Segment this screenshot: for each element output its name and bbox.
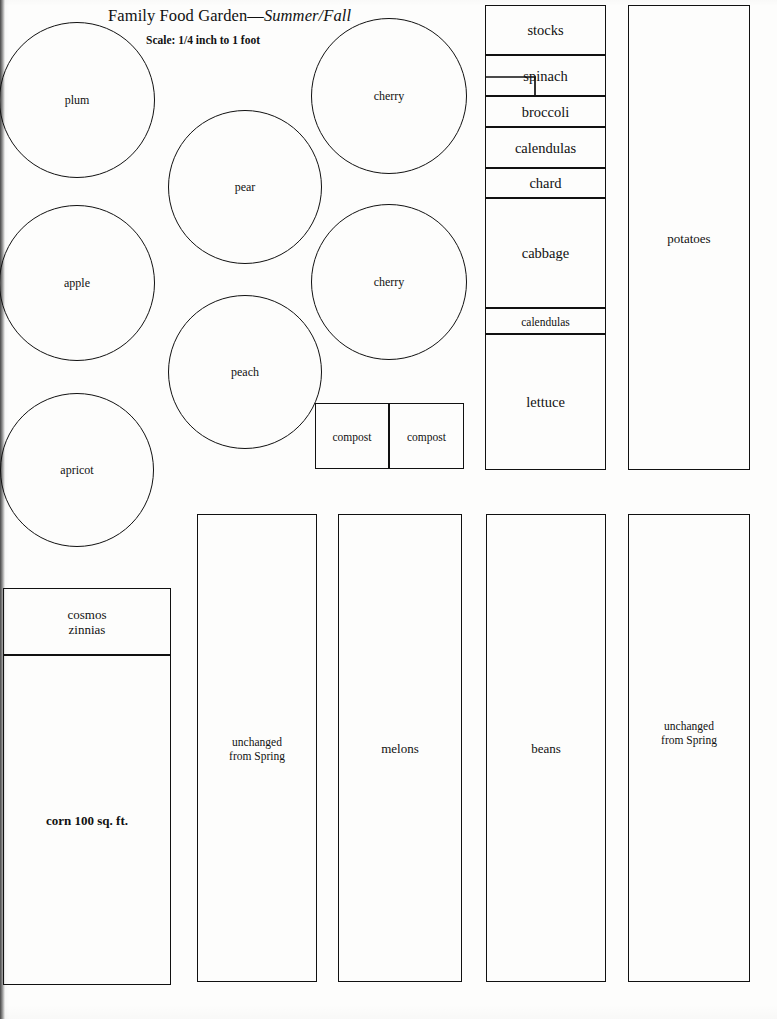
page-title: Family Food Garden—Summer/Fall bbox=[108, 6, 351, 26]
title-main: Family Food Garden bbox=[108, 6, 247, 25]
bed-unchanged-spring-2: unchanged from Spring bbox=[628, 514, 750, 982]
bed-potatoes: potatoes bbox=[628, 5, 750, 470]
scale-note: Scale: 1/4 inch to 1 foot bbox=[146, 34, 260, 46]
tree-plum: plum bbox=[0, 22, 155, 178]
bed-melons: melons bbox=[338, 514, 462, 982]
tree-apricot: apricot bbox=[0, 393, 154, 547]
bed-stocks: stocks bbox=[485, 5, 606, 55]
bed-label: potatoes bbox=[629, 231, 749, 247]
bed-label: broccoli bbox=[486, 104, 605, 122]
bed-label: chard bbox=[486, 175, 605, 193]
bed-calendulas-lower: calendulas bbox=[485, 308, 606, 334]
tree-label: apple bbox=[0, 276, 154, 291]
bed-beans: beans bbox=[486, 514, 606, 982]
bed-label: calendulas bbox=[486, 140, 605, 158]
bed-label: cabbage bbox=[486, 245, 605, 263]
bed-label: melons bbox=[339, 741, 461, 757]
bed-cabbage: cabbage bbox=[485, 198, 606, 308]
bed-spinach: spinach bbox=[485, 55, 606, 96]
bed-lettuce: lettuce bbox=[485, 334, 606, 470]
tree-label: peach bbox=[169, 365, 321, 380]
bed-compost-left: compost bbox=[315, 403, 389, 469]
bed-label: stocks bbox=[486, 22, 605, 40]
bed-label: beans bbox=[487, 741, 605, 757]
bed-calendulas-upper: calendulas bbox=[485, 127, 606, 168]
bed-label: compost bbox=[390, 430, 463, 444]
tree-label: cherry bbox=[312, 275, 466, 290]
tree-cherry-top: cherry bbox=[311, 18, 467, 174]
bed-label: cosmos zinnias bbox=[4, 607, 170, 639]
bed-unchanged-spring-1: unchanged from Spring bbox=[197, 514, 317, 982]
bed-label: compost bbox=[316, 430, 388, 444]
tree-label: cherry bbox=[312, 89, 466, 104]
garden-plan-page: Family Food Garden—Summer/Fall Scale: 1/… bbox=[0, 0, 777, 1019]
title-season: Summer/Fall bbox=[264, 6, 351, 25]
bed-label: unchanged from Spring bbox=[198, 735, 316, 763]
bed-compost-right: compost bbox=[389, 403, 464, 469]
bed-label: spinach bbox=[486, 68, 605, 86]
bed-chard: chard bbox=[485, 168, 606, 198]
tree-pear: pear bbox=[168, 110, 322, 264]
title-dash: — bbox=[247, 6, 264, 25]
tree-label: pear bbox=[169, 180, 321, 195]
tree-cherry-bottom: cherry bbox=[311, 204, 467, 360]
bed-cosmos-zinnias: cosmos zinnias bbox=[3, 588, 171, 655]
tree-label: apricot bbox=[1, 463, 153, 478]
bed-corn: corn 100 sq. ft. bbox=[3, 655, 171, 985]
tree-label: plum bbox=[0, 93, 154, 108]
bed-label: calendulas bbox=[486, 315, 605, 329]
bed-label: unchanged from Spring bbox=[629, 719, 749, 747]
bed-label: lettuce bbox=[486, 394, 605, 412]
tree-apple: apple bbox=[0, 205, 155, 361]
bed-broccoli: broccoli bbox=[485, 96, 606, 127]
bed-label: corn 100 sq. ft. bbox=[4, 813, 170, 829]
tree-peach: peach bbox=[168, 295, 322, 449]
